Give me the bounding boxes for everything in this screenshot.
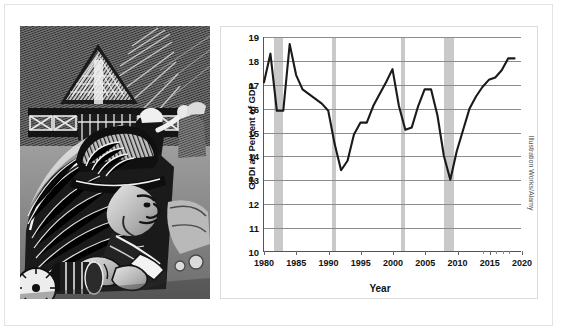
y-tick-label: 14	[248, 151, 259, 162]
y-tick-label: 17	[248, 79, 259, 90]
plot-area-wrapper: 19181716151413121110 1980198519901995200…	[263, 37, 521, 252]
woodcut-illustration-svg	[20, 26, 210, 299]
x-axis-label: Year	[221, 283, 539, 294]
x-minor-tick-mark	[483, 251, 484, 254]
figure-container: GPDI as Percent of GDP 19181716151413121…	[4, 4, 553, 326]
x-tick-label: 2015	[480, 258, 500, 268]
x-minor-tick-mark	[496, 251, 497, 254]
x-tick-mark	[361, 251, 362, 255]
plot-area: 19181716151413121110 1980198519901995200…	[263, 37, 521, 252]
x-tick-label: 2010	[447, 258, 467, 268]
x-tick-mark	[490, 251, 491, 255]
y-tick-label: 11	[249, 223, 259, 234]
x-tick-mark	[329, 251, 330, 255]
x-tick-mark	[522, 251, 523, 255]
x-tick-label: 1995	[351, 258, 371, 268]
x-tick-label: 2005	[415, 258, 435, 268]
y-tick-label: 19	[248, 32, 259, 43]
x-minor-tick-mark	[509, 251, 510, 254]
data-series-line	[264, 37, 521, 251]
x-tick-label: 1980	[254, 258, 274, 268]
image-credit: Illustration Works/Alamy	[528, 136, 535, 246]
y-tick-label: 13	[248, 175, 259, 186]
chart-panel: GPDI as Percent of GDP 19181716151413121…	[220, 26, 538, 299]
y-tick-label: 15	[248, 127, 259, 138]
y-tick-label: 10	[248, 247, 259, 258]
x-minor-tick-mark	[503, 251, 504, 254]
x-tick-label: 2000	[383, 258, 403, 268]
x-tick-label: 2020	[512, 258, 532, 268]
x-tick-mark	[425, 251, 426, 255]
y-tick-label: 16	[248, 103, 259, 114]
x-tick-mark	[458, 251, 459, 255]
y-tick-label: 12	[248, 199, 259, 210]
x-tick-mark	[264, 251, 265, 255]
x-tick-label: 1990	[318, 258, 338, 268]
illustration-image	[20, 26, 210, 299]
x-tick-mark	[393, 251, 394, 255]
y-tick-label: 18	[248, 55, 259, 66]
x-tick-mark	[296, 251, 297, 255]
x-tick-label: 1985	[286, 258, 306, 268]
